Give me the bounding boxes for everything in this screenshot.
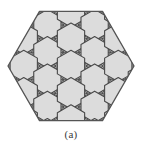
hexagon-tiling-figure bbox=[0, 0, 142, 132]
hexagon-cell-outlines bbox=[0, 0, 142, 132]
figure-container: (a) bbox=[0, 0, 142, 149]
figure-caption: (a) bbox=[0, 127, 142, 141]
